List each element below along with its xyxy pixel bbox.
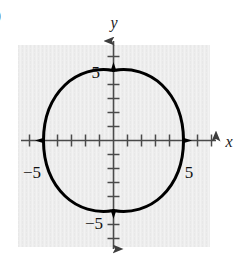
x-tick-label-positive-five: 5 [185,163,194,182]
y-tick-label-positive-five: 5 [92,63,101,82]
x-axis-label: x [224,133,232,150]
x-tick-label-negative-five: −5 [23,163,41,182]
y-tick-label-negative-five: −5 [85,214,103,233]
chart-canvas: y x 5 −5 −5 5 [0,0,237,254]
astroid-figure: ) [0,0,237,254]
y-axis-label: y [108,14,118,32]
